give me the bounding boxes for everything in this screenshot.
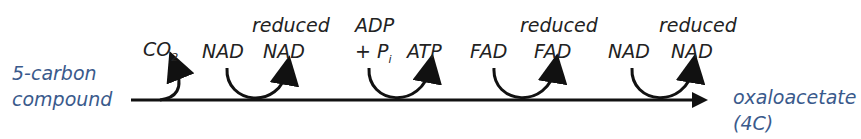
pi-label: + Pi xyxy=(355,40,391,71)
nad-input-label-1: NAD xyxy=(202,40,244,62)
reduced-label-3: reduced xyxy=(659,14,737,36)
nad-output-label-1: NAD xyxy=(263,40,305,62)
nad-reduction-arrow-2 xyxy=(632,68,693,98)
co2-arrow xyxy=(160,65,179,100)
fad-output-label: FAD xyxy=(534,40,571,62)
end-label-line2: (4C) xyxy=(733,112,773,134)
atp-label: ATP xyxy=(407,40,442,62)
main-arrowhead xyxy=(692,92,708,108)
reduced-label-2: reduced xyxy=(520,14,598,36)
fad-reduction-arrow xyxy=(494,68,555,98)
nad-input-label-2: NAD xyxy=(608,40,650,62)
end-label-line1: oxaloacetate xyxy=(733,86,856,108)
start-label-line2: compound xyxy=(12,88,112,110)
reduced-label-1: reduced xyxy=(252,14,330,36)
start-label-line1: 5-carbon xyxy=(12,62,97,84)
nad-output-label-2: NAD xyxy=(671,40,713,62)
adp-label: ADP xyxy=(355,14,394,36)
fad-input-label: FAD xyxy=(470,40,507,62)
co2-label: CO2 xyxy=(143,38,178,69)
atp-arrow xyxy=(369,68,430,98)
nad-reduction-arrow-1 xyxy=(227,68,287,98)
